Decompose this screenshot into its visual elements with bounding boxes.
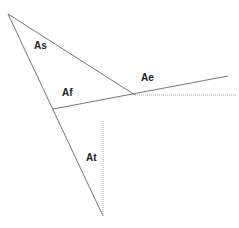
angle-diagram: As Af Ae At: [0, 0, 239, 228]
label-ae: Ae: [141, 72, 154, 83]
label-af: Af: [62, 87, 73, 98]
label-as: As: [34, 40, 47, 51]
label-at: At: [86, 152, 97, 163]
